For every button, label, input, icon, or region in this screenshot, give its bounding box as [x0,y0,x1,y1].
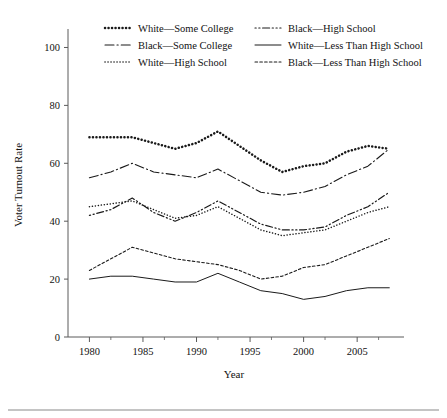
legend-label: White—High School [138,57,227,68]
legend-label: White—Less Than High School [288,40,423,51]
series-line-black-high-school [89,192,389,230]
y-axis-ticks: 020406080100 [44,42,68,343]
x-tick-label: 1995 [240,346,261,357]
series-line-white-less-than-high-school [89,273,389,299]
series-line-white-some-college [89,131,389,172]
series-group [89,131,389,299]
x-tick-label: 2005 [347,346,368,357]
y-tick-label: 100 [44,42,60,53]
y-tick-label: 0 [55,332,60,343]
y-axis-title: Voter Turnout Rate [12,143,24,227]
y-tick-label: 40 [50,216,61,227]
x-tick-label: 1980 [79,346,100,357]
legend-label: White—Some College [138,23,234,34]
series-line-black-some-college [89,149,389,195]
legend-label: Black—High School [288,23,376,34]
series-line-white-high-school [89,201,389,236]
x-axis-title: Year [224,368,245,380]
y-tick-label: 60 [50,158,61,169]
y-tick-label: 20 [50,274,61,285]
legend-label: Black—Some College [138,40,233,51]
series-line-black-less-than-high-school [89,239,389,280]
x-axis-ticks: 198019851990199520002005 [79,337,379,357]
legend-label: Black—Less Than High School [288,57,422,68]
y-tick-label: 80 [50,100,61,111]
axis-spines [68,29,404,337]
x-tick-label: 2000 [293,346,314,357]
voter-turnout-line-chart: 020406080100198019851990199520002005Year… [0,0,447,418]
x-tick-label: 1990 [186,346,207,357]
figure-voter-turnout-by-race-education: 020406080100198019851990199520002005Year… [0,0,447,418]
x-tick-label: 1985 [132,346,153,357]
legend: White—Some CollegeBlack—Some CollegeWhit… [105,23,423,68]
axes [68,29,404,337]
